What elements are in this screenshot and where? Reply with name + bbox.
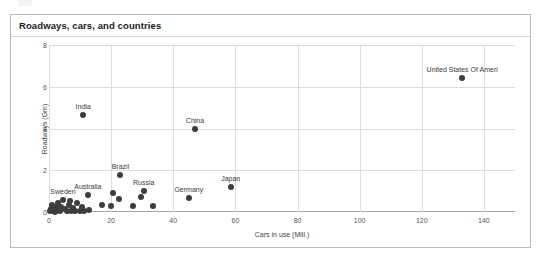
chart-container: Roadways, cars, and countries Cars in us… [10,14,531,248]
data-point-label: Australia [74,183,101,190]
y-gridline [49,129,515,130]
x-axis-tick-label: 140 [478,217,490,224]
data-point[interactable] [117,172,123,178]
data-point[interactable] [55,200,61,206]
y-axis-tick-label: 4 [37,125,47,132]
data-point[interactable] [108,203,114,209]
data-point[interactable] [110,190,116,196]
data-point[interactable] [150,203,156,209]
data-point[interactable] [79,204,85,210]
y-gridline [49,45,515,46]
x-axis-tick-label: 0 [47,217,51,224]
plot-area: Cars in use (Mill.) Roadways (Gm) 020406… [49,45,515,212]
data-point[interactable] [99,202,105,208]
data-point[interactable] [116,196,122,202]
screenshot-root: Roadways, cars, and countries Cars in us… [0,0,541,258]
data-point[interactable] [49,202,55,208]
data-point[interactable] [67,198,73,204]
x-axis-tick-label: 100 [354,217,366,224]
y-axis-tick-label: 8 [37,42,47,49]
data-point[interactable] [57,208,63,214]
data-point[interactable] [228,184,234,190]
y-axis-tick-label: 6 [37,83,47,90]
data-point[interactable] [80,112,86,118]
x-axis-tick-label: 80 [294,217,302,224]
chart-title: Roadways, cars, and countries [19,20,161,31]
x-axis-tick-label: 60 [231,217,239,224]
data-point-label: Russia [133,179,154,186]
data-point[interactable] [138,194,144,200]
y-gridline [49,87,515,88]
data-point-label: Sweden [50,188,75,195]
data-point-label: India [76,103,91,110]
data-point-label: United States Of Ameri [427,66,498,73]
title-divider [11,36,530,37]
data-point[interactable] [130,203,136,209]
data-point[interactable] [186,195,192,201]
data-point[interactable] [192,126,198,132]
data-point[interactable] [60,197,66,203]
y-gridline [49,170,515,171]
data-point-label: Japan [221,175,240,182]
y-axis-tick-label: 0 [37,209,47,216]
x-axis-title: Cars in use (Mill.) [49,231,515,238]
x-axis-tick-label: 40 [169,217,177,224]
x-axis-tick-label: 20 [107,217,115,224]
x-axis-tick-label: 120 [416,217,428,224]
data-point-label: Germany [174,186,203,193]
y-axis-tick-label: 2 [37,167,47,174]
data-point[interactable] [85,192,91,198]
x-axis-line [49,211,515,212]
capture-artifact [18,0,32,6]
data-point[interactable] [459,75,465,81]
data-point-label: China [186,117,204,124]
